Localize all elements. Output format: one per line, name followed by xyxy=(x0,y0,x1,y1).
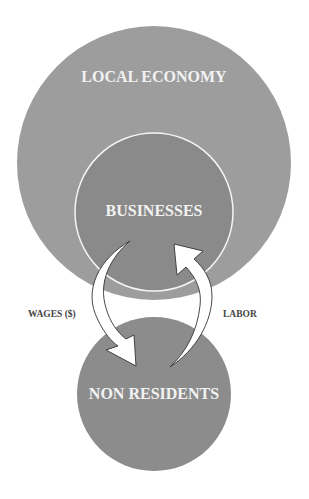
non-residents-label: NON RESIDENTS xyxy=(54,385,254,403)
businesses-label: BUSINESSES xyxy=(54,202,254,220)
labor-edge-label: LABOR xyxy=(223,309,257,319)
local-economy-label: LOCAL ECONOMY xyxy=(54,68,254,86)
wages-edge-label: WAGES ($) xyxy=(28,309,76,319)
